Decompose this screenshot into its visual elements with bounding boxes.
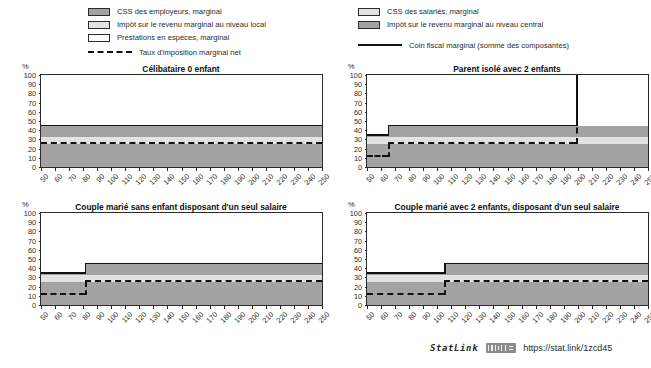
x-tick-label: 190 <box>232 172 247 187</box>
taux-net-step <box>388 144 390 158</box>
x-tick-label: 200 <box>572 310 587 325</box>
legend-item-css-salaries: CSS des salariés, marginal <box>358 6 569 17</box>
legend-label: Taux d'imposition marginal net <box>139 48 241 57</box>
y-tick-label: 20 <box>354 144 362 153</box>
coin-fiscal-line <box>41 272 85 273</box>
x-tick-mark <box>367 168 368 171</box>
legend-item-coin-fiscal: Coin fiscal marginal (somme des composan… <box>358 39 569 51</box>
x-tick-label: 50 <box>38 172 50 184</box>
x-tick-label: 140 <box>162 310 177 325</box>
x-tick-label: 190 <box>558 310 573 325</box>
x-tick-mark <box>69 168 70 171</box>
area-band <box>85 264 322 275</box>
x-tick-label: 160 <box>516 310 531 325</box>
y-tick-label: 40 <box>28 264 36 273</box>
coin-fiscal-step <box>444 264 445 274</box>
x-tick-label: 160 <box>516 172 531 187</box>
panel-title: Couple marié avec 2 enfants, disposant d… <box>366 202 648 212</box>
x-tick-label: 90 <box>420 172 432 184</box>
x-axis-1: 5060708090100110120130140150160170180190… <box>366 168 649 198</box>
x-tick-mark <box>111 306 112 309</box>
y-tick-label: 30 <box>28 273 36 282</box>
x-tick-mark <box>252 168 253 171</box>
x-tick-mark <box>451 306 452 309</box>
legend-item-impot-central: Impôt sur le revenu marginal au niveau c… <box>358 19 569 30</box>
statlink-url[interactable]: https://stat.link/1zcd45 <box>523 343 612 353</box>
y-tick-label: 80 <box>354 89 362 98</box>
coin-fiscal-line <box>367 272 444 273</box>
x-tick-label: 100 <box>432 172 447 187</box>
x-tick-label: 50 <box>364 310 376 322</box>
x-tick-mark <box>423 168 424 171</box>
area-band <box>41 274 85 275</box>
x-tick-label: 170 <box>530 172 545 187</box>
x-tick-mark <box>308 306 309 309</box>
x-tick-label: 250 <box>316 310 331 325</box>
x-tick-mark <box>522 306 523 309</box>
plot-area-1 <box>366 74 649 168</box>
x-tick-label: 180 <box>544 172 559 187</box>
x-tick-label: 210 <box>586 172 601 187</box>
taux-net-line <box>85 280 322 282</box>
taux-net-line <box>41 293 85 295</box>
x-tick-mark <box>592 168 593 171</box>
area-band <box>367 275 444 281</box>
x-tick-label: 130 <box>148 172 163 187</box>
x-tick-label: 60 <box>52 310 64 322</box>
plot-area-wrap-2 <box>40 212 323 306</box>
y-tick-label: 80 <box>28 89 36 98</box>
x-tick-label: 90 <box>94 172 106 184</box>
y-tick-label: 10 <box>28 153 36 162</box>
x-tick-label: 50 <box>364 172 376 184</box>
x-tick-label: 220 <box>600 172 615 187</box>
x-tick-label: 80 <box>406 172 418 184</box>
x-tick-mark <box>409 168 410 171</box>
x-axis-3: 5060708090100110120130140150160170180190… <box>366 306 649 336</box>
taux-net-line <box>444 280 648 282</box>
x-tick-label: 110 <box>120 310 135 325</box>
area-band <box>388 144 575 167</box>
coin-fiscal-step <box>388 126 389 136</box>
x-tick-label: 90 <box>94 310 106 322</box>
x-tick-mark <box>620 168 621 171</box>
x-tick-mark <box>280 168 281 171</box>
x-tick-mark <box>69 306 70 309</box>
x-tick-mark <box>367 306 368 309</box>
y-tick-label: 0 <box>32 163 36 172</box>
swatch-dark-grey-icon <box>88 8 110 16</box>
legend-label: Prestations en espèces, marginal <box>117 33 229 42</box>
x-tick-mark <box>280 306 281 309</box>
coin-fiscal-line <box>444 263 648 264</box>
y-tick-label: 20 <box>28 282 36 291</box>
x-tick-label: 60 <box>52 172 64 184</box>
x-tick-mark <box>395 306 396 309</box>
y-tick-label: 80 <box>28 227 36 236</box>
area-band <box>367 137 388 143</box>
x-tick-mark <box>238 306 239 309</box>
y-axis-0: 0102030405060708090100 <box>0 74 38 168</box>
panel-title: Parent isolé avec 2 enfants <box>366 64 648 74</box>
x-tick-mark <box>125 306 126 309</box>
x-tick-label: 180 <box>218 310 233 325</box>
plot-area-wrap-0 <box>40 74 323 168</box>
legend-label: Coin fiscal marginal (somme des composan… <box>409 41 569 50</box>
x-tick-mark <box>322 168 323 171</box>
y-tick-label: 10 <box>354 153 362 162</box>
y-tick-label: 70 <box>354 236 362 245</box>
y-axis-3: 0102030405060708090100 <box>326 212 364 306</box>
x-tick-mark <box>634 168 635 171</box>
x-tick-mark <box>41 168 42 171</box>
x-tick-label: 180 <box>544 310 559 325</box>
x-tick-mark <box>508 168 509 171</box>
y-tick-label: 20 <box>354 282 362 291</box>
legend-item-css-employeurs: CSS des employeurs, marginal <box>88 6 266 17</box>
y-axis-1: 0102030405060708090100 <box>326 74 364 168</box>
x-tick-mark <box>196 306 197 309</box>
x-tick-mark <box>252 306 253 309</box>
legend-item-taux-imposition-net: Taux d'imposition marginal net <box>88 46 266 58</box>
swatch-dark-grey-icon <box>358 21 380 29</box>
x-tick-mark <box>139 168 140 171</box>
x-tick-label: 240 <box>302 310 317 325</box>
x-tick-mark <box>139 306 140 309</box>
x-tick-label: 220 <box>600 310 615 325</box>
